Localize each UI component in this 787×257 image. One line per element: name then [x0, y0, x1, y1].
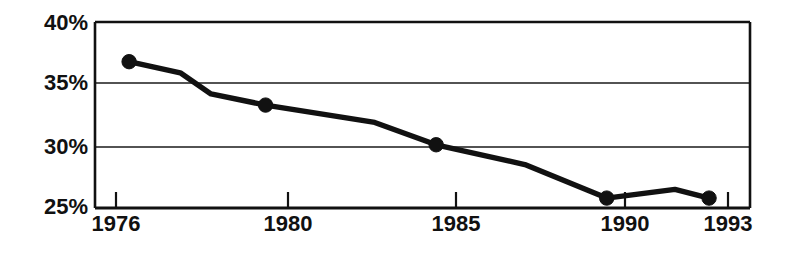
- x-tick-label-1980: 1980: [264, 211, 313, 236]
- y-tick-label-40: 40%: [44, 10, 88, 35]
- data-point-marker-1980: [258, 98, 272, 112]
- data-point-marker-1993: [702, 191, 716, 205]
- y-tick-label-25: 25%: [44, 194, 88, 219]
- chart-canvas: 40% 35% 30% 25% 1976 1980 1985 1990 1993: [0, 0, 787, 257]
- y-tick-label-35: 35%: [44, 70, 88, 95]
- x-tick-label-1976: 1976: [92, 211, 141, 236]
- x-tick-label-1985: 1985: [432, 211, 481, 236]
- data-point-marker-1976: [122, 54, 136, 68]
- data-point-marker-1985: [429, 138, 443, 152]
- data-point-marker-1990: [600, 191, 614, 205]
- y-tick-label-30: 30%: [44, 134, 88, 159]
- x-tick-label-1990: 1990: [601, 211, 650, 236]
- line-chart-figure: 40% 35% 30% 25% 1976 1980 1985 1990 1993: [0, 0, 787, 257]
- x-tick-label-1993: 1993: [704, 211, 753, 236]
